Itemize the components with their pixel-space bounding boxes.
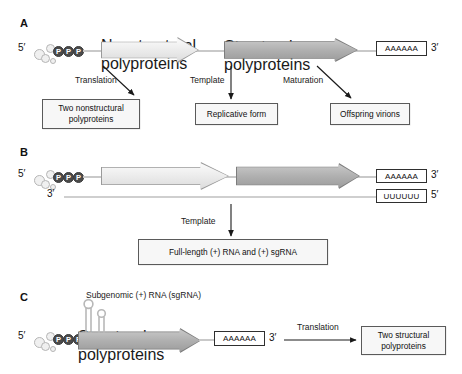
panel-b-outcome-box-fulllength: Full-length (+) RNA and (+) sgRNA [138, 239, 328, 265]
panel-b-five-prime-label: 5′ [18, 168, 25, 179]
panel-c-three-prime-label: 3′ [269, 332, 276, 343]
panel-a-outcome-box-virions: Offspring virions [330, 103, 410, 125]
panel-c-header-label: Subgenomic (+) RNA (sgRNA) [86, 290, 201, 300]
panel-c-outcome-box-structural: Two structural polyproteins [361, 326, 446, 355]
panel-a-rna-backbone-left [83, 50, 103, 52]
panel-b-plus-three-prime-label: 3′ [431, 169, 438, 180]
panel-b-plus-backbone-left [83, 176, 103, 178]
panel-c-process-label-translation: Translation [297, 322, 339, 332]
panel-c-five-prime-label: 5′ [18, 330, 25, 341]
panel-c-rna-backbone-right [199, 339, 215, 341]
panel-a-process-label-translation: Translation [75, 75, 117, 85]
cap-ribose-ring-icon [41, 54, 50, 63]
panel-a-cap-structure: P P P [34, 40, 94, 64]
panel-a-outcome-box-replicative: Replicative form [195, 103, 278, 125]
panel-b-minus-strand-backbone [64, 196, 376, 198]
panel-a-rna-backbone-mid [196, 50, 226, 52]
panel-a-polya-box: AAAAAA [376, 41, 427, 56]
orf-structural-body [237, 164, 359, 188]
panel-b-minus-five-prime-label: 5′ [431, 189, 438, 200]
panel-b-polyu-box: UUUUUU [376, 189, 427, 203]
panel-c-polya-box: AAAAAA [214, 331, 265, 346]
panel-letter-b: B [20, 146, 28, 158]
cap-hydroxyl-icon [50, 346, 56, 352]
panel-a-three-prime-label: 3′ [431, 42, 438, 53]
panel-a-outcome-box-nonstructural: Two nonstructural polyproteins [42, 99, 140, 129]
panel-b-minus-three-prime-label: 3′ [47, 188, 54, 199]
panel-a-five-prime-label: 5′ [18, 42, 25, 53]
panel-letter-c: C [20, 291, 28, 303]
panel-a-orf-structural: Structural polyproteins [224, 38, 358, 62]
figure-canvas: A 5′ P P P Nonstructural polyproteins St… [0, 0, 462, 374]
orf-structural-body [79, 329, 200, 352]
panel-b-orf-structural [236, 163, 360, 189]
panel-letter-a: A [20, 17, 28, 29]
orf-structural-body [225, 39, 357, 61]
panel-a-process-label-maturation: Maturation [283, 75, 323, 85]
panel-b-polya-box: AAAAAA [376, 169, 427, 183]
cap-hydroxyl-icon [50, 58, 56, 64]
panel-a-orf-nonstructural: Nonstructural polyproteins [101, 37, 199, 63]
panel-b-process-label-template: Template [181, 216, 216, 226]
panel-b-orf-nonstructural [101, 162, 229, 190]
panel-c-orf-structural: Structural polyproteins [78, 328, 201, 353]
cap-ribose-ring-icon [41, 342, 50, 351]
panel-a-process-label-template: Template [190, 75, 225, 85]
panel-b-cap-structure: P P P [34, 166, 94, 190]
